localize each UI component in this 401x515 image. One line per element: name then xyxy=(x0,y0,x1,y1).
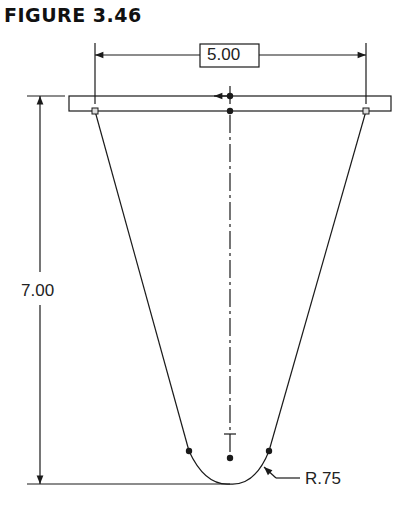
technical-drawing xyxy=(0,0,401,515)
height-dimension-label: 7.00 xyxy=(21,281,54,301)
radius-label: R.75 xyxy=(305,469,341,489)
width-dimension-label: 5.00 xyxy=(207,45,240,65)
